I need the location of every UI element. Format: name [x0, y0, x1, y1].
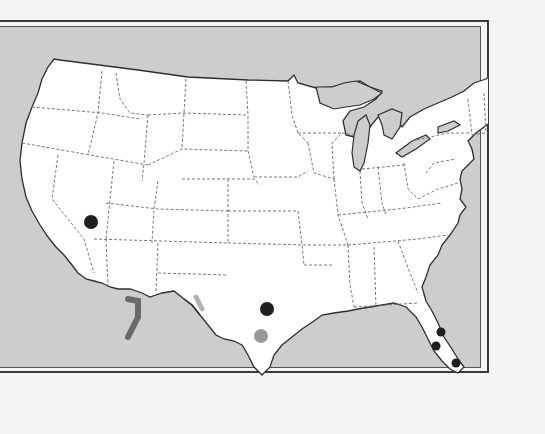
us-map [0, 27, 488, 387]
cropped-caption-fragment [0, 0, 545, 12]
lake-superior [316, 81, 382, 109]
marker-florida-east[interactable] [437, 328, 446, 337]
marker-nevada[interactable] [84, 215, 98, 229]
marker-florida-south[interactable] [452, 359, 461, 368]
baja-range-mark [128, 299, 138, 337]
marker-central-texas[interactable] [260, 302, 274, 316]
map-frame [0, 20, 489, 373]
marker-florida-west[interactable] [432, 342, 441, 351]
marker-south-texas[interactable] [254, 329, 268, 343]
map-panel [0, 26, 481, 368]
